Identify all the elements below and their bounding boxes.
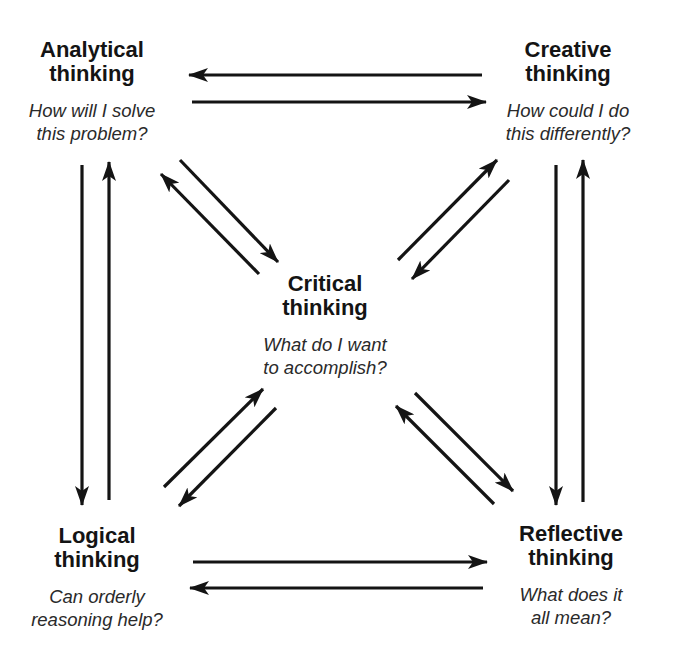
node-critical-thinking: Critical thinking What do I want to acco…	[263, 272, 386, 379]
arrow-reflective-to-critical	[396, 406, 494, 504]
node-question: What do I want to accomplish?	[263, 333, 386, 379]
node-title: Creative thinking	[506, 38, 630, 86]
node-title-line: thinking	[519, 546, 623, 570]
node-question-line: reasoning help?	[31, 608, 163, 631]
node-creative-thinking: Creative thinking How could I do this di…	[506, 38, 630, 145]
node-question: How will I solve this problem?	[29, 99, 155, 145]
node-question-line: Can orderly	[31, 585, 163, 608]
node-title-line: Critical	[263, 272, 386, 296]
node-title-line: thinking	[506, 62, 630, 86]
node-question: What does it all mean?	[519, 583, 623, 629]
node-title-line: Creative	[506, 38, 630, 62]
node-question-line: How could I do	[506, 99, 630, 122]
node-question-line: What do I want	[263, 333, 386, 356]
node-title-line: Analytical	[29, 38, 155, 62]
node-analytical-thinking: Analytical thinking How will I solve thi…	[29, 38, 155, 145]
node-title: Critical thinking	[263, 272, 386, 320]
node-title-line: Reflective	[519, 522, 623, 546]
node-title-line: thinking	[29, 62, 155, 86]
node-question-line: this differently?	[506, 122, 630, 145]
node-title: Analytical thinking	[29, 38, 155, 86]
node-question-line: to accomplish?	[263, 356, 386, 379]
thinking-modes-diagram: Analytical thinking How will I solve thi…	[0, 0, 675, 663]
arrow-analytical-to-critical	[180, 160, 278, 262]
node-title-line: thinking	[31, 548, 163, 572]
node-logical-thinking: Logical thinking Can orderly reasoning h…	[31, 524, 163, 631]
node-question-line: all mean?	[519, 606, 623, 629]
node-question-line: this problem?	[29, 122, 155, 145]
node-title-line: thinking	[263, 296, 386, 320]
node-question-line: What does it	[519, 583, 623, 606]
node-title: Reflective thinking	[519, 522, 623, 570]
node-title-line: Logical	[31, 524, 163, 548]
node-question: Can orderly reasoning help?	[31, 585, 163, 631]
node-question-line: How will I solve	[29, 99, 155, 122]
node-title: Logical thinking	[31, 524, 163, 572]
node-reflective-thinking: Reflective thinking What does it all mea…	[519, 522, 623, 629]
arrow-critical-to-reflective	[415, 393, 513, 491]
node-question: How could I do this differently?	[506, 99, 630, 145]
